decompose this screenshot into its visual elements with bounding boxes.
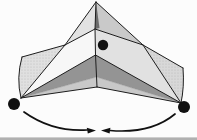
right-motion-arrow-shaft [110, 114, 175, 131]
left-motion-arrowhead-icon [87, 128, 96, 134]
upper-point-dot [98, 40, 108, 50]
left-corner-point-dot [8, 98, 20, 110]
right-motion-arrowhead-icon [101, 128, 110, 134]
origami-diagram [0, 0, 197, 140]
motion-arrows [24, 112, 175, 134]
figure-canvas [0, 0, 197, 140]
bottom-scan-strip [0, 137, 197, 140]
right-corner-point-dot [178, 101, 190, 113]
left-motion-arrow-shaft [24, 112, 87, 130]
